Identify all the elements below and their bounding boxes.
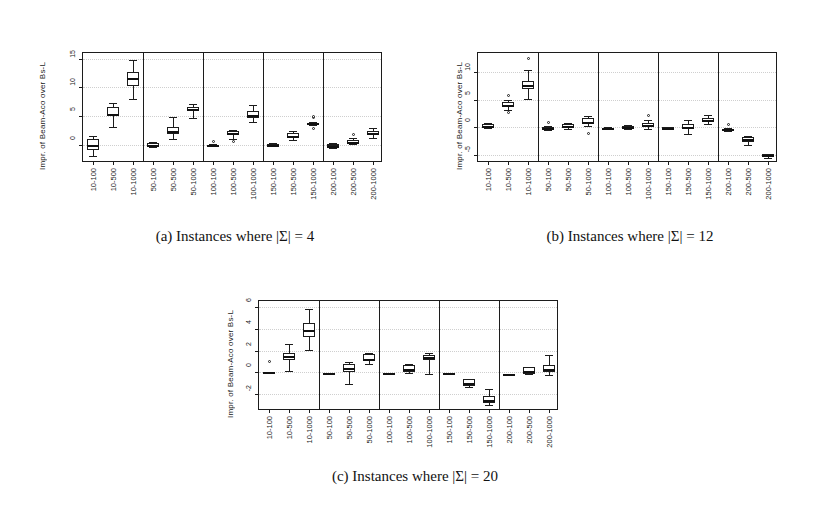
panel-caption-c: (c) Instances where |Σ| = 20 bbox=[215, 468, 615, 485]
y-tick-label: 0 bbox=[245, 363, 252, 367]
y-tick-label: 2 bbox=[245, 342, 252, 346]
x-tick bbox=[329, 409, 330, 413]
x-tick bbox=[449, 409, 450, 413]
x-tick bbox=[529, 409, 530, 413]
x-tick bbox=[309, 409, 310, 413]
whisker-upper bbox=[549, 355, 550, 365]
median-line bbox=[543, 369, 555, 371]
x-tick bbox=[489, 409, 490, 413]
x-tick bbox=[469, 409, 470, 413]
x-tick-label: 200-100 bbox=[505, 416, 514, 444]
plot-area-c: -2024610-10010-50010-100050-10050-50050-… bbox=[258, 300, 558, 410]
x-tick-label: 100-1000 bbox=[425, 416, 434, 448]
x-tick bbox=[429, 409, 430, 413]
x-tick bbox=[389, 409, 390, 413]
x-tick bbox=[409, 409, 410, 413]
y-tick-label: -2 bbox=[245, 385, 252, 391]
x-tick-label: 100-500 bbox=[405, 416, 414, 444]
x-tick-label: 100-100 bbox=[385, 416, 394, 444]
x-tick-label: 10-500 bbox=[285, 416, 294, 439]
x-tick bbox=[349, 409, 350, 413]
x-tick-label: 50-500 bbox=[345, 416, 354, 439]
x-tick-label: 200-1000 bbox=[545, 416, 554, 448]
x-tick-label: 50-1000 bbox=[365, 416, 374, 444]
x-tick-label: 200-500 bbox=[525, 416, 534, 444]
x-tick-label: 150-1000 bbox=[485, 416, 494, 448]
x-tick-label: 50-100 bbox=[325, 416, 334, 439]
x-tick-label: 10-1000 bbox=[305, 416, 314, 444]
x-tick bbox=[549, 409, 550, 413]
y-tick-label: 6 bbox=[245, 298, 252, 302]
x-tick-label: 10-100 bbox=[265, 416, 274, 439]
x-tick bbox=[289, 409, 290, 413]
chart-panel-c: Impr. of Beam-Aco over Bs-L-2024610-1001… bbox=[0, 0, 840, 510]
box-plot-item bbox=[259, 301, 557, 409]
x-tick-label: 150-100 bbox=[445, 416, 454, 444]
cap-lower bbox=[545, 375, 552, 376]
x-tick-label: 150-500 bbox=[465, 416, 474, 444]
x-tick bbox=[269, 409, 270, 413]
cap-upper bbox=[545, 355, 552, 356]
x-tick bbox=[509, 409, 510, 413]
x-tick bbox=[369, 409, 370, 413]
y-tick-label: 4 bbox=[245, 320, 252, 324]
y-axis-label-c: Impr. of Beam-Aco over Bs-L bbox=[226, 288, 235, 418]
